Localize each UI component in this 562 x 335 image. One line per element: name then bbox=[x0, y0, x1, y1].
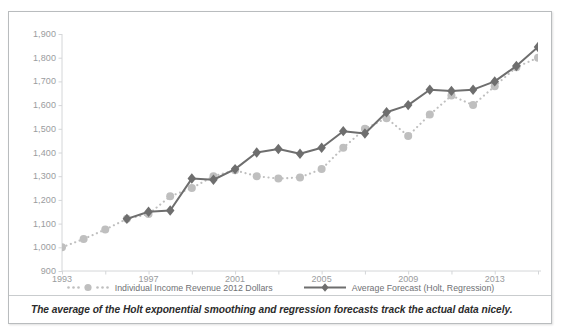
circle-dotted-marker-icon bbox=[66, 282, 110, 293]
data-point-marker bbox=[339, 126, 348, 136]
data-point-marker bbox=[296, 173, 304, 181]
figure-caption: The average of the Holt exponential smoo… bbox=[9, 304, 513, 315]
data-point-marker bbox=[101, 226, 109, 234]
y-tick-label: 1,000 bbox=[10, 242, 56, 252]
data-point-marker bbox=[404, 132, 412, 140]
data-point-marker bbox=[80, 235, 88, 243]
data-point-marker bbox=[339, 144, 347, 152]
y-tick-label: 1,500 bbox=[10, 124, 56, 134]
data-point-marker bbox=[426, 111, 434, 119]
chart-area: 9001,0001,1001,2001,3001,4001,5001,6001,… bbox=[9, 12, 551, 297]
legend-item-forecast: Average Forecast (Holt, Regression) bbox=[303, 282, 495, 293]
caption-bar: The average of the Holt exponential smoo… bbox=[9, 295, 551, 323]
data-point-marker bbox=[253, 172, 261, 180]
data-point-marker bbox=[252, 147, 261, 157]
data-point-marker bbox=[469, 101, 477, 109]
data-point-marker bbox=[534, 54, 538, 62]
y-tick-label: 1,800 bbox=[10, 53, 56, 63]
y-tick-label: 900 bbox=[10, 266, 56, 276]
data-point-marker bbox=[469, 84, 478, 94]
y-tick-label: 1,700 bbox=[10, 76, 56, 86]
figure-container: 9001,0001,1001,2001,3001,4001,5001,6001,… bbox=[8, 11, 552, 324]
legend-label-forecast: Average Forecast (Holt, Regression) bbox=[352, 283, 495, 293]
data-point-marker bbox=[274, 144, 283, 154]
data-point-marker bbox=[274, 175, 282, 183]
y-tick-label: 1,900 bbox=[10, 29, 56, 39]
data-point-marker bbox=[404, 100, 413, 110]
y-tick-label: 1,300 bbox=[10, 171, 56, 181]
y-tick-label: 1,600 bbox=[10, 100, 56, 110]
data-series-layer bbox=[62, 34, 538, 271]
series-forecast bbox=[123, 42, 538, 224]
y-tick-label: 1,200 bbox=[10, 195, 56, 205]
data-point-marker bbox=[166, 192, 174, 200]
plot-area bbox=[62, 34, 538, 271]
data-point-marker bbox=[296, 148, 305, 158]
data-point-marker bbox=[317, 143, 326, 153]
y-tick-label: 1,100 bbox=[10, 219, 56, 229]
legend-label-actual: Individual Income Revenue 2012 Dollars bbox=[115, 283, 273, 293]
y-tick-label: 1,400 bbox=[10, 148, 56, 158]
data-point-marker bbox=[188, 184, 196, 192]
data-point-marker bbox=[426, 84, 435, 94]
data-point-marker bbox=[123, 214, 132, 224]
data-point-marker bbox=[62, 243, 66, 251]
data-point-marker bbox=[318, 165, 326, 173]
legend-item-actual: Individual Income Revenue 2012 Dollars bbox=[66, 282, 273, 293]
diamond-solid-marker-icon bbox=[303, 282, 347, 293]
